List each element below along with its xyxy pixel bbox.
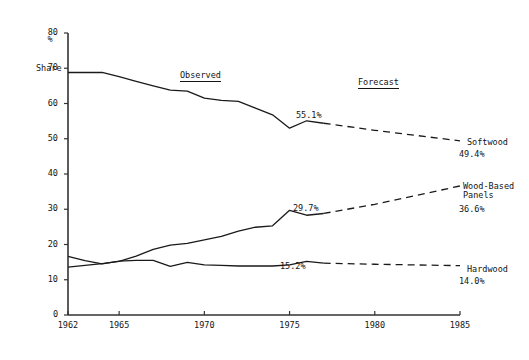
series-endvalue-softwood: 49.4%: [459, 150, 485, 160]
observed-period-label: Observed: [180, 70, 221, 82]
x-axis-tick-label: 1965: [99, 321, 139, 330]
x-axis-tick-label: 1975: [270, 321, 310, 330]
x-axis-tick-label: 1970: [184, 321, 224, 330]
series-label-softwood: Softwood: [467, 138, 508, 148]
y-axis-tick-label: 60: [36, 99, 58, 108]
series-label-panels-line2: Panels: [463, 191, 494, 201]
y-axis-tick-label: 0: [36, 310, 58, 319]
y-axis-tick-label: 70: [36, 63, 58, 72]
series-line-forecast-wood-based-panels: [324, 186, 460, 214]
series-line-observed-wood-based-panels: [68, 210, 324, 267]
series-label-hardwood: Hardwood: [467, 265, 508, 275]
forecast-period-label: Forecast: [358, 77, 399, 89]
series-paths: [68, 72, 460, 267]
y-axis-tick-label: 10: [36, 275, 58, 284]
hardwood-inline-value: 15.2%: [280, 261, 306, 271]
chart-container: % Share Observed Forecast 55.1% 29.7% 15…: [0, 0, 529, 360]
softwood-inline-value: 55.1%: [296, 110, 322, 120]
series-line-forecast-hardwood: [324, 263, 460, 265]
chart-plot-area: [0, 0, 529, 360]
x-axis-tick-label: 1980: [355, 321, 395, 330]
y-axis-tick-label: 30: [36, 204, 58, 213]
y-axis-tick-label: 50: [36, 134, 58, 143]
x-axis-tick-label: 1962: [48, 321, 88, 330]
series-endvalue-panels: 36.6%: [459, 205, 485, 215]
panels-inline-value: 29.7%: [293, 203, 319, 213]
y-axis-tick-label: 20: [36, 240, 58, 249]
y-axis-tick-label: 80: [36, 28, 58, 37]
x-axis-tick-label: 1985: [440, 321, 480, 330]
y-axis-tick-label: 40: [36, 169, 58, 178]
series-endvalue-hardwood: 14.0%: [459, 277, 485, 287]
series-line-forecast-softwood: [324, 123, 460, 141]
